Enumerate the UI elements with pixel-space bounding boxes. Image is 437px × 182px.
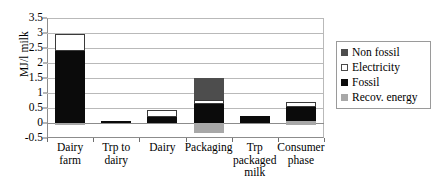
bar-segment-electricity[interactable]	[286, 102, 316, 107]
stacked-bar[interactable]	[101, 18, 131, 138]
bar-slot	[278, 18, 324, 138]
legend-item[interactable]: Non fossil	[341, 45, 427, 60]
plot-area: 3.532.521.510.50-0.5	[47, 18, 324, 138]
stacked-bar[interactable]	[147, 18, 177, 138]
bar-segment-fossil[interactable]	[240, 116, 270, 123]
bar-segment-recov[interactable]	[55, 123, 85, 125]
x-axis-label-line: milk	[226, 166, 284, 179]
bar-segment-fossil[interactable]	[147, 117, 177, 123]
bar-segment-nonfossil[interactable]	[194, 78, 224, 100]
legend-swatch-icon	[341, 79, 348, 86]
bar-segment-recov[interactable]	[194, 123, 224, 133]
stacked-bar[interactable]	[55, 18, 85, 138]
bar-segment-electricity[interactable]	[194, 100, 224, 105]
x-axis-label-line: phase	[272, 154, 330, 167]
bar-segment-fossil[interactable]	[101, 121, 131, 123]
x-axis-label: Consumerphase	[272, 141, 330, 166]
legend-swatch-icon	[341, 49, 348, 56]
bar-slot	[186, 18, 232, 138]
bar-segment-electricity[interactable]	[55, 34, 85, 51]
x-axis-label-line: dairy	[87, 154, 145, 167]
bar-slot	[232, 18, 278, 138]
y-tick-label: 1.5	[29, 72, 43, 84]
legend-item[interactable]: Recov. energy	[341, 90, 427, 105]
x-axis-label-line: Consumer	[272, 141, 330, 154]
legend-swatch-icon	[341, 64, 348, 71]
stacked-bar[interactable]	[286, 18, 316, 138]
bar-segment-fossil[interactable]	[194, 104, 224, 123]
y-tick-label: 3.5	[29, 12, 43, 24]
y-tick-label: 2.5	[29, 42, 43, 54]
bar-segment-recov[interactable]	[286, 121, 316, 125]
legend: Non fossilElectricityFossilRecov. energy	[336, 41, 431, 109]
legend-item[interactable]: Fossil	[341, 75, 427, 90]
bar-segment-fossil[interactable]	[55, 51, 85, 123]
legend-label: Fossil	[352, 77, 380, 89]
bar-slot	[139, 18, 185, 138]
bar-segment-fossil[interactable]	[286, 107, 316, 121]
bar-slot	[47, 18, 93, 138]
bar-segment-electricity[interactable]	[147, 110, 177, 117]
stacked-bar[interactable]	[194, 18, 224, 138]
y-tick-label: 0.5	[29, 102, 43, 114]
stacked-bar[interactable]	[240, 18, 270, 138]
legend-swatch-icon	[341, 94, 348, 101]
legend-item[interactable]: Electricity	[341, 60, 427, 75]
energy-use-stacked-bar-chart: MJ/l milk 3.532.521.510.50-0.5 Dairyfarm…	[0, 0, 437, 182]
legend-label: Electricity	[352, 62, 400, 74]
bar-slot	[93, 18, 139, 138]
legend-label: Non fossil	[352, 47, 400, 59]
legend-label: Recov. energy	[352, 92, 417, 104]
